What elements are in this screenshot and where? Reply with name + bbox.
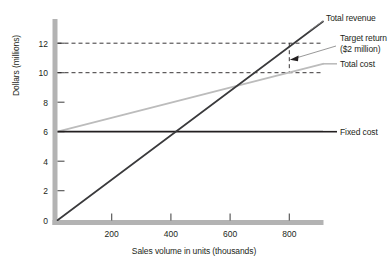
target-return-leader-line xyxy=(296,46,336,58)
y-tick-label-6: 6 xyxy=(30,127,48,137)
annotation-target-return-line2: ($2 million) xyxy=(340,44,380,55)
annotation-total-cost: Total cost xyxy=(340,59,375,70)
annotation-total-revenue: Total revenue xyxy=(326,13,376,24)
x-tick-label-600: 600 xyxy=(215,229,245,239)
y-tick-label-8: 8 xyxy=(30,98,48,108)
total-revenue-leader-line xyxy=(309,21,323,31)
x-axis-bar xyxy=(53,220,324,225)
x-axis-title: Sales volume in units (thousands) xyxy=(0,246,388,256)
x-tick-label-800: 800 xyxy=(274,229,304,239)
x-tick-marks xyxy=(112,214,290,221)
chart-plot-area xyxy=(0,0,388,265)
y-tick-label-0: 0 xyxy=(30,216,48,226)
y-axis-title: Dollars (millions) xyxy=(11,35,21,96)
annotation-target-return-line1: Target return xyxy=(340,33,387,44)
y-tick-marks xyxy=(58,43,65,191)
x-tick-label-200: 200 xyxy=(97,229,127,239)
y-tick-label-2: 2 xyxy=(30,186,48,196)
target-return-arrowhead-icon xyxy=(290,55,299,61)
breakeven-chart: 12 10 8 6 4 2 0 200 400 600 800 Dollars … xyxy=(0,0,388,265)
reference-lines xyxy=(58,43,323,72)
x-tick-label-400: 400 xyxy=(156,229,186,239)
y-tick-label-4: 4 xyxy=(30,157,48,167)
annotation-fixed-cost: Fixed cost xyxy=(340,127,378,138)
y-tick-label-12: 12 xyxy=(30,39,48,49)
y-tick-label-10: 10 xyxy=(30,68,48,78)
y-axis-bar xyxy=(53,19,58,225)
